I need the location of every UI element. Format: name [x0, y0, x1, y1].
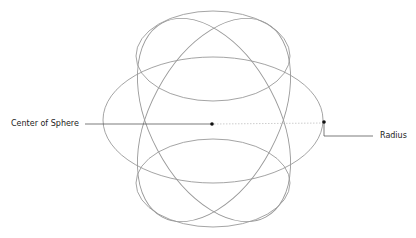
- radius-label: Radius: [380, 131, 407, 141]
- radius-dotted-line: [214, 123, 324, 124]
- center-of-sphere-label: Center of Sphere: [11, 119, 79, 129]
- tilted-ellipse-right: [106, 0, 322, 238]
- center-dot: [210, 122, 214, 126]
- equator-ellipse: [103, 57, 323, 183]
- sphere-diagram: Center of Sphere Radius: [0, 0, 416, 238]
- radius-dot: [322, 120, 326, 124]
- radius-leader-line: [324, 123, 373, 136]
- tilted-ellipse-left: [106, 0, 322, 238]
